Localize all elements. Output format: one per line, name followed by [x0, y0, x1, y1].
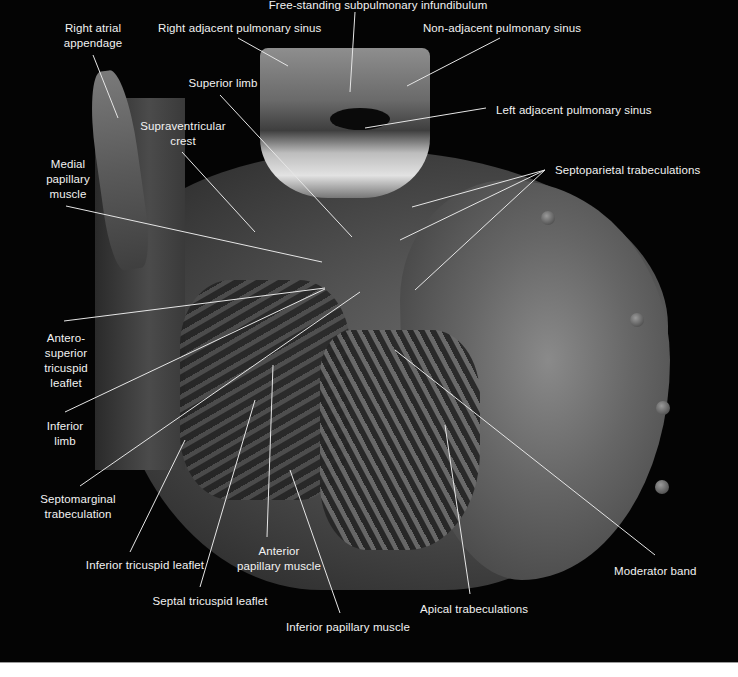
label-text-line: Inferior — [40, 419, 90, 434]
leader-line — [64, 288, 325, 321]
label-inferior-papillary-muscle: Inferior papillary muscle — [278, 620, 418, 635]
label-superior-limb: Superior limb — [183, 76, 263, 91]
label-text-line: leaflet — [38, 376, 94, 391]
label-text-line: Apical trabeculations — [420, 602, 530, 617]
label-text-line: Non-adjacent pulmonary sinus — [422, 21, 582, 36]
label-apical-trabeculations: Apical trabeculations — [420, 602, 530, 617]
label-text-line: Septomarginal — [38, 492, 118, 507]
leader-line — [238, 38, 288, 66]
label-text-line: Left adjacent pulmonary sinus — [496, 103, 656, 118]
leader-line — [290, 470, 340, 613]
leader-line — [365, 108, 486, 128]
leader-line — [267, 365, 273, 537]
label-text-line: Right adjacent pulmonary sinus — [158, 21, 318, 36]
annotated-heart-figure: Free-standing subpulmonary infundibulumR… — [0, 0, 738, 662]
label-left-adjacent-pulmonary-sinus: Left adjacent pulmonary sinus — [496, 103, 656, 118]
label-medial-papillary-muscle: Medialpapillarymuscle — [40, 157, 96, 202]
label-text-line: Inferior papillary muscle — [278, 620, 418, 635]
label-anterior-papillary-muscle: Anteriorpapillary muscle — [224, 544, 334, 574]
label-text-line: Anterior — [224, 544, 334, 559]
label-text-line: Superior limb — [183, 76, 263, 91]
label-text-line: Free-standing subpulmonary infundibulum — [258, 0, 498, 13]
leader-line — [400, 170, 545, 240]
label-septoparietal-trabeculations: Septoparietal trabeculations — [555, 163, 705, 178]
leader-line — [445, 425, 470, 594]
bottom-page-strip — [0, 662, 738, 677]
label-text-line: trabeculation — [38, 507, 118, 522]
label-text-line: limb — [40, 434, 90, 449]
label-septomarginal-trabeculation: Septomarginaltrabeculation — [38, 492, 118, 522]
leader-line — [93, 55, 118, 118]
label-text-line: superior — [38, 346, 94, 361]
label-text-line: crest — [138, 134, 228, 149]
leader-line — [182, 152, 255, 232]
label-text-line: appendage — [58, 36, 128, 51]
label-supraventricular-crest: Supraventricularcrest — [138, 119, 228, 149]
label-moderator-band: Moderator band — [614, 564, 704, 579]
leader-line — [395, 350, 655, 555]
label-free-standing-subpulmonary-infundibulum: Free-standing subpulmonary infundibulum — [258, 0, 498, 13]
label-text-line: Antero- — [38, 331, 94, 346]
label-antero-superior-tricuspid-leaflet: Antero-superiortricuspidleaflet — [38, 331, 94, 391]
label-text-line: Medial — [40, 157, 96, 172]
label-text-line: muscle — [40, 187, 96, 202]
label-right-adjacent-pulmonary-sinus: Right adjacent pulmonary sinus — [158, 21, 318, 36]
label-inferior-limb: Inferiorlimb — [40, 419, 90, 449]
label-inferior-tricuspid-leaflet: Inferior tricuspid leaflet — [70, 558, 220, 573]
label-text-line: papillary muscle — [224, 559, 334, 574]
label-text-line: Moderator band — [614, 564, 704, 579]
leader-line — [130, 440, 185, 552]
label-text-line: Inferior tricuspid leaflet — [70, 558, 220, 573]
label-text-line: Septoparietal trabeculations — [555, 163, 705, 178]
label-text-line: Septal tricuspid leaflet — [140, 594, 280, 609]
label-text-line: tricuspid — [38, 361, 94, 376]
label-text-line: papillary — [40, 172, 96, 187]
label-right-atrial-appendage: Right atrialappendage — [58, 21, 128, 51]
label-septal-tricuspid-leaflet: Septal tricuspid leaflet — [140, 594, 280, 609]
leader-line — [65, 289, 325, 412]
leader-line — [407, 38, 500, 86]
label-text-line: Right atrial — [58, 21, 128, 36]
label-text-line: Supraventricular — [138, 119, 228, 134]
label-non-adjacent-pulmonary-sinus: Non-adjacent pulmonary sinus — [422, 21, 582, 36]
leader-line — [350, 12, 355, 92]
leader-line — [80, 292, 360, 486]
leader-line — [66, 206, 322, 262]
